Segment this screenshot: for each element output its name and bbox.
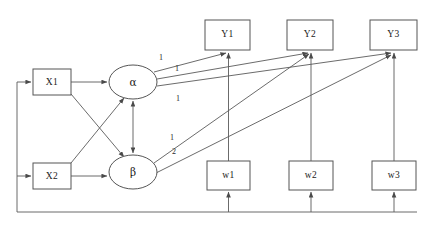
node-beta-label: β (130, 166, 136, 178)
residual-edges-group (229, 53, 395, 161)
node-x2-label: X2 (46, 171, 58, 181)
node-y2[interactable]: Y2 (287, 20, 333, 50)
beta-loadings-group (154, 54, 391, 173)
coef-alpha-y2: 1 (175, 64, 179, 73)
node-w3-label: w3 (388, 170, 400, 180)
node-x2[interactable]: X2 (33, 163, 71, 189)
coef-alpha-y3: 1 (176, 94, 180, 103)
node-beta[interactable]: β (109, 155, 157, 189)
edge-alpha-to-y3 (157, 53, 391, 86)
node-w2[interactable]: w2 (289, 161, 333, 190)
edge-x2-to-alpha (71, 98, 124, 163)
node-w2-label: w2 (305, 170, 317, 180)
node-w1[interactable]: w1 (207, 161, 250, 190)
node-y2-label: Y2 (304, 29, 316, 39)
diagram-svg: X1 X2 Y1 Y2 Y3 w1 w2 w3 (0, 0, 436, 232)
edge-x1-to-beta (71, 94, 124, 157)
node-x1[interactable]: X1 (33, 69, 71, 95)
node-y1[interactable]: Y1 (205, 20, 250, 50)
path-diagram-canvas: X1 X2 Y1 Y2 Y3 w1 w2 w3 (0, 0, 436, 232)
node-alpha-label: α (129, 76, 136, 88)
node-w3[interactable]: w3 (372, 161, 416, 190)
node-y3-label: Y3 (387, 29, 399, 39)
node-x1-label: X1 (46, 77, 58, 87)
node-alpha[interactable]: α (109, 65, 157, 99)
node-y1-label: Y1 (221, 29, 233, 39)
coef-beta-y3: 2 (172, 147, 176, 156)
node-w1-label: w1 (222, 170, 234, 180)
coef-alpha-y1: 1 (159, 53, 163, 62)
coef-beta-y2: 1 (170, 133, 174, 142)
alpha-loadings-group (154, 53, 391, 86)
node-y3[interactable]: Y3 (370, 20, 417, 50)
